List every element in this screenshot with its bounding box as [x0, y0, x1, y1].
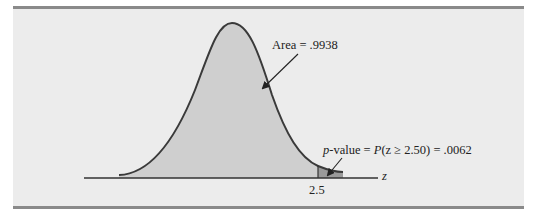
pvalue-expr: (z ≥ 2.50) = .0062	[381, 143, 471, 157]
area-annotation: Area = .9938	[272, 38, 338, 52]
pvalue-annotation: p-value = P(z ≥ 2.50) = .0062	[322, 143, 472, 157]
area-annotation-arrow	[263, 54, 298, 88]
pvalue-text: -value =	[329, 143, 374, 157]
tick-label-2-5: 2.5	[309, 183, 325, 197]
pvalue-P-italic: P	[373, 143, 382, 157]
pvalue-p-italic: p	[322, 143, 329, 157]
normal-curve-diagram: z 2.5 Area = .9938 p-value = P(z ≥ 2.50)…	[0, 0, 539, 221]
z-axis-label: z	[381, 169, 387, 183]
